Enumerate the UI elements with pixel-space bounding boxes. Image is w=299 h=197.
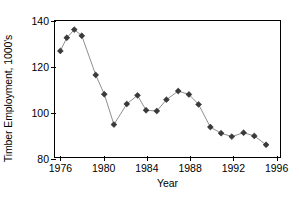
x-axis-tick bbox=[147, 156, 148, 161]
x-axis-tick-label: 1996 bbox=[265, 162, 288, 174]
plot-area: 80100120140197619801984198819921996 bbox=[54, 20, 281, 158]
x-axis-tick bbox=[233, 156, 234, 161]
x-axis-tick bbox=[190, 156, 191, 161]
x-axis-tick bbox=[277, 156, 278, 161]
y-axis-tick bbox=[51, 159, 56, 160]
data-point-marker bbox=[241, 130, 247, 136]
y-axis-tick-label: 80 bbox=[37, 153, 49, 165]
series-layer bbox=[55, 21, 280, 157]
data-point-marker bbox=[111, 122, 117, 128]
data-point-marker bbox=[57, 48, 63, 54]
series-line bbox=[60, 30, 266, 145]
y-axis-tick bbox=[51, 67, 56, 68]
y-axis-title: Timber Employment, 1000's bbox=[0, 0, 16, 197]
x-axis-tick-label: 1988 bbox=[178, 162, 201, 174]
data-point-marker bbox=[229, 134, 235, 140]
data-point-marker bbox=[143, 107, 149, 113]
y-axis-tick-label: 120 bbox=[31, 61, 49, 73]
x-axis-title: Year bbox=[54, 177, 281, 189]
data-point-marker bbox=[218, 130, 224, 136]
data-point-marker bbox=[207, 124, 213, 130]
y-axis-tick-label: 100 bbox=[31, 107, 49, 119]
x-axis-tick-label: 1976 bbox=[49, 162, 72, 174]
x-axis-tick bbox=[60, 156, 61, 161]
x-axis-tick bbox=[104, 156, 105, 161]
x-axis-tick-label: 1980 bbox=[92, 162, 115, 174]
y-axis-tick bbox=[51, 21, 56, 22]
timber-employment-chart: Timber Employment, 1000's 80100120140197… bbox=[0, 0, 299, 197]
data-point-marker bbox=[101, 91, 107, 97]
x-axis-tick-label: 1992 bbox=[222, 162, 245, 174]
x-axis-tick-label: 1984 bbox=[135, 162, 158, 174]
y-axis-tick bbox=[51, 113, 56, 114]
data-point-marker bbox=[93, 72, 99, 78]
y-axis-tick-label: 140 bbox=[31, 15, 49, 27]
